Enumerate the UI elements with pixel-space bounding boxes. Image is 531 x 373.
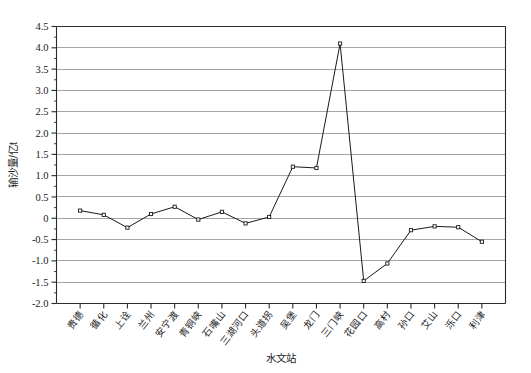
- y-tick-label-11: -1.0: [32, 255, 49, 266]
- x-tick-label-14: 孙口: [396, 309, 417, 332]
- x-tick-label-5: 青铜峡: [177, 309, 204, 339]
- x-tick-label-10: 龙门: [301, 309, 322, 332]
- x-axis-title: 水文站: [266, 352, 297, 364]
- data-point-12: 花园口: -1.47: [362, 279, 365, 282]
- data-point-13: 高村: -1.06: [386, 262, 389, 265]
- sediment-load-line-chart: 4.54.03.53.02.52.01.51.00.50-0.5-1.0-1.5…: [0, 0, 531, 373]
- gridlines-group: [57, 27, 506, 283]
- x-tick-label-11: 三门峡: [319, 309, 346, 339]
- y-tick-label-1: 4.0: [35, 42, 48, 53]
- x-tick-label-4: 安宁渡: [153, 309, 180, 339]
- x-tick-label-8: 头道拐: [248, 309, 275, 339]
- data-point-10: 龙门: 1.18: [315, 166, 318, 169]
- data-point-9: 吴堡: 1.21: [291, 165, 294, 168]
- data-point-2: 上诠: -0.22: [126, 226, 129, 229]
- y-axis-title: 输沙量/亿t: [7, 142, 19, 188]
- data-point-16: 泺口: -0.21: [457, 226, 460, 229]
- data-point-1: 循化: 0.08: [102, 213, 105, 216]
- data-point-14: 孙口: -0.28: [409, 229, 412, 232]
- y-tick-label-5: 2.0: [35, 128, 48, 139]
- data-point-8: 头道拐: 0.03: [268, 215, 271, 218]
- x-tick-label-2: 上诠: [112, 309, 133, 332]
- data-point-4: 安宁渡: 0.27: [173, 205, 176, 208]
- chart-canvas: 4.54.03.53.02.52.01.51.00.50-0.5-1.0-1.5…: [0, 0, 531, 373]
- data-point-6: 石嘴山: 0.15: [220, 210, 223, 213]
- y-tick-label-3: 3.0: [35, 85, 48, 96]
- y-tick-label-6: 1.5: [35, 149, 48, 160]
- x-tick-label-3: 兰州: [136, 309, 157, 332]
- data-point-3: 兰州: 0.1: [149, 212, 152, 215]
- x-tick-label-15: 艾山: [419, 309, 440, 332]
- x-tick-label-12: 花园口: [342, 309, 369, 339]
- series-line-sediment-load: [80, 44, 482, 281]
- y-tick-label-0: 4.5: [35, 21, 48, 32]
- data-point-11: 三门峡: 4.1: [338, 42, 341, 45]
- data-point-17: 利津: -0.55: [480, 240, 483, 243]
- x-tick-label-9: 吴堡: [277, 309, 298, 332]
- x-tick-label-16: 泺口: [443, 309, 464, 332]
- axis-frame: [57, 27, 506, 304]
- x-axis-ticks: 贵德循化上诠兰州安宁渡青铜峡石嘴山三湖河口头道拐吴堡龙门三门峡花园口高村孙口艾山…: [65, 304, 488, 348]
- y-tick-label-10: -0.5: [32, 234, 49, 245]
- y-tick-label-12: -1.5: [32, 277, 49, 288]
- y-tick-label-8: 0.5: [35, 192, 48, 203]
- data-point-0: 贵德: 0.18: [79, 209, 82, 212]
- series-markers: 贵德: 0.18循化: 0.08上诠: -0.22兰州: 0.1安宁渡: 0.2…: [79, 42, 484, 283]
- y-axis-ticks: 4.54.03.53.02.52.01.51.00.50-0.5-1.0-1.5…: [32, 21, 57, 309]
- x-tick-label-13: 高村: [372, 309, 393, 332]
- data-point-15: 艾山: -0.19: [433, 225, 436, 228]
- y-tick-label-7: 1.0: [35, 170, 48, 181]
- y-tick-label-9: 0: [43, 213, 48, 224]
- x-tick-label-0: 贵德: [65, 309, 86, 332]
- y-tick-label-13: -2.0: [32, 298, 49, 309]
- x-tick-label-1: 循化: [88, 309, 109, 332]
- y-tick-label-2: 3.5: [35, 64, 48, 75]
- data-point-7: 三湖河口: -0.12: [244, 222, 247, 225]
- x-tick-label-17: 利津: [466, 309, 487, 332]
- y-tick-label-4: 2.5: [35, 106, 48, 117]
- data-point-5: 青铜峡: -0.03: [197, 218, 200, 221]
